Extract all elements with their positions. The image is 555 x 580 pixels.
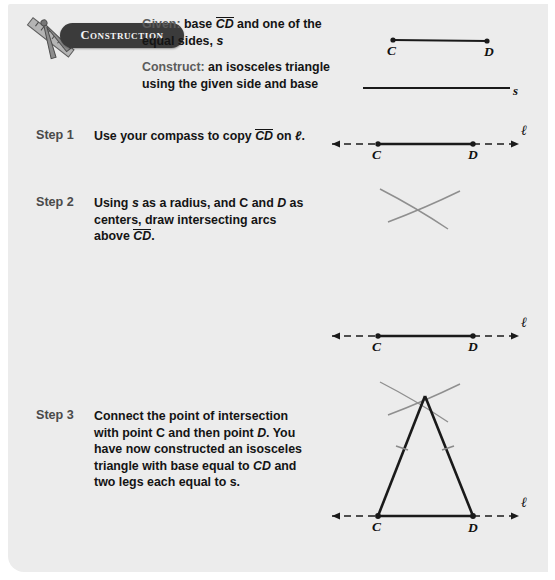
textbook-page: Construction Given: base CD and one of t… [0,0,555,580]
given-construct-block: Given: base CD and one of the equal side… [142,16,357,102]
label-side-s: s [512,83,518,98]
step-3-arrow-left [332,512,340,519]
given-text-before: base [181,17,216,31]
step-2-arrow-right [511,332,519,339]
step-2-var-s: s [132,196,139,210]
step-3-arrow-right [511,512,519,519]
step-2-text-part-2: as a radius, and C and [139,196,277,210]
step-2-text: Using s as a radius, and C and D as cent… [94,195,309,245]
step-1-text: Use your compass to copy CD on ℓ. [94,128,309,145]
step-1-segment-cd: CD [255,129,273,143]
given-paragraph: Given: base CD and one of the equal side… [142,16,357,49]
step-1-point-c-dot [375,141,380,146]
step-3-label-d: D [467,520,478,535]
step-3-label-line: ℓ [521,495,527,510]
arc-from-d [388,191,460,222]
label-point-c: C [387,43,397,58]
given-label: Given: [142,17,181,31]
step-2-point-c-dot [375,333,380,338]
step-1-label-c: C [372,147,382,162]
step-3-var-d: D [257,426,266,440]
step-3-var-s: s [230,475,237,489]
step-3-label-c: C [372,519,382,534]
step-3-text-part-4: . [237,475,240,489]
step-1-arrow-left [332,140,340,147]
step-3-segment-cd: CD [253,459,271,473]
point-d-dot [484,38,489,43]
step-1-row: Step 1 Use your compass to copy CD on ℓ.… [8,122,548,177]
arc-from-c [380,189,448,229]
step-1-text-part-3: . [301,129,304,143]
content-panel: Construction Given: base CD and one of t… [8,4,548,572]
step-3-row: Step 3 Connect the point of intersection… [8,402,548,572]
given-figures: C D s [348,18,548,108]
step-2-line-figure: C D ℓ [318,314,533,359]
step-2-label-c: C [372,339,382,354]
step-2-text-part-1: Using [94,196,132,210]
step-2-label: Step 2 [36,195,74,209]
step-1-figure: C D ℓ [318,122,533,167]
step-3-figure: C D ℓ [318,374,533,549]
point-c-dot [390,37,395,42]
step-3-arc-from-c [380,382,448,422]
construct-label: Construct: [142,60,205,74]
step-1-label-line: ℓ [521,123,527,138]
step-3-label: Step 3 [36,408,74,422]
given-segment-figure: C D [387,37,494,59]
given-segment-cd: CD [216,17,234,31]
step-1-label-d: D [467,147,478,162]
step-2-arrow-left [332,332,340,339]
header-section: Construction Given: base CD and one of t… [8,4,548,112]
step-1-arrow-right [511,140,519,147]
step-2-label-line: ℓ [521,315,527,330]
segment-cd-line [393,40,487,41]
triangle-leg-left [378,396,425,516]
step-1-text-part-1: Use your compass to copy [94,129,255,143]
step-2-row: Step 2 Using s as a radius, and C and D … [8,189,548,354]
tick-mark-right-leg [442,446,454,450]
step-3-text: Connect the point of intersection with p… [94,408,309,491]
step-3-point-d-dot [470,513,476,519]
step-1-label: Step 1 [36,128,74,142]
label-point-d: D [483,44,494,59]
step-2-label-d: D [467,339,478,354]
step-2-var-d: D [277,196,286,210]
construct-paragraph: Construct: an isosceles triangle using t… [142,59,357,92]
step-2-segment-cd: CD [133,229,151,243]
triangle-leg-right [425,396,473,516]
step-1-text-part-2: on [273,129,295,143]
step-2-text-part-4: . [151,229,154,243]
given-side-figure: s [363,83,518,98]
given-side-label: s [216,34,223,48]
step-2-arcs-figure [318,181,533,241]
